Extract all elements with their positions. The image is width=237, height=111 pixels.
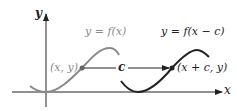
original-point (80, 66, 85, 71)
x-axis-label: x (224, 83, 231, 97)
original-curve-label: y = f(x) (85, 25, 126, 38)
shifted-curve-label: y = f(x − c) (161, 25, 225, 38)
shifted-point-label: (x + c, y) (177, 61, 227, 74)
original-point-label: (x, y) (50, 61, 78, 74)
y-axis-label: y (35, 6, 42, 20)
shifted-point (170, 66, 175, 71)
shift-amount-label: c (118, 60, 125, 74)
